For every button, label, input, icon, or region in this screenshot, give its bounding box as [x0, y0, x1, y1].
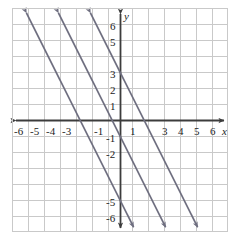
x-tick-label--6: -6: [14, 126, 23, 137]
y-axis-label: y: [124, 11, 129, 22]
x-tick-label-6: 6: [210, 126, 216, 137]
x-axis-label: x: [222, 126, 227, 137]
graph-canvas: [0, 0, 240, 248]
x-tick-label-5: 5: [194, 126, 200, 137]
y-tick-label--5: -5: [106, 197, 115, 208]
y-tick-label-3: 3: [110, 69, 116, 80]
x-tick-label--5: -5: [30, 126, 39, 137]
x-tick-label-4: 4: [178, 126, 184, 137]
x-tick-label--4: -4: [46, 126, 55, 137]
y-tick-label--2: -2: [106, 149, 115, 160]
y-tick-label-6: 6: [110, 21, 116, 32]
x-tick-label--3: -3: [62, 126, 71, 137]
x-tick-label--1: -1: [94, 126, 103, 137]
y-tick-label-5: 5: [110, 37, 116, 48]
x-tick-label-1: 1: [130, 126, 136, 137]
y-tick-label-2: 2: [110, 85, 116, 96]
y-tick-label--6: -6: [106, 213, 115, 224]
y-tick-label--1: -1: [106, 133, 115, 144]
coordinate-plane-figure: -6 -5 -4 -3 -1 1 3 4 5 6 6 5 3 2 1 -1 -2…: [0, 0, 240, 248]
x-tick-label-3: 3: [162, 126, 168, 137]
y-tick-label-1: 1: [110, 101, 116, 112]
